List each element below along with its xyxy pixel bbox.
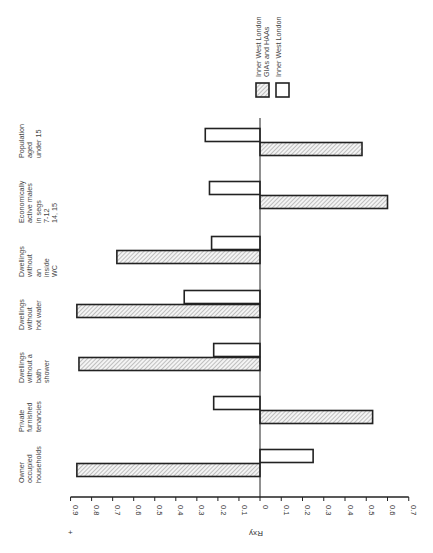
bar-inner-west-london bbox=[184, 291, 260, 304]
bar-inner-west-london bbox=[214, 344, 260, 357]
legend-label: Inner West LondonGIAs and HAAs bbox=[254, 16, 271, 77]
positive-sign-marker: + bbox=[68, 528, 73, 537]
tick-label: 0.1 bbox=[282, 505, 291, 515]
bar-inner-west-london bbox=[260, 450, 313, 463]
legend: Inner West LondonGIAs and HAAsInner West… bbox=[254, 16, 289, 97]
bar-gias-and-haas bbox=[260, 143, 362, 156]
category-label: Populationagedunder 15 bbox=[17, 124, 43, 158]
category-label-line: shower bbox=[42, 359, 51, 383]
bar-gias-and-haas bbox=[77, 305, 260, 318]
bar-gias-and-haas bbox=[117, 251, 260, 264]
tick-label-zero: 0 bbox=[261, 505, 270, 509]
category-label: DwellingswithoutaninsideWC bbox=[17, 246, 59, 278]
tick-label: 0.3 bbox=[197, 505, 206, 515]
legend-swatch-hatched bbox=[256, 83, 269, 97]
bar-gias-and-haas bbox=[79, 358, 260, 371]
category-label-line: tenancies bbox=[34, 401, 43, 432]
tick-label: 0.7 bbox=[113, 505, 122, 515]
category-labels: OwneroccupiedhouseholdsPrivatefurnishedt… bbox=[17, 124, 59, 483]
tick-label: 0.6 bbox=[134, 505, 143, 515]
bar-gias-and-haas bbox=[260, 411, 373, 424]
category-label-line: hot water bbox=[34, 300, 43, 330]
bar-inner-west-london bbox=[212, 237, 260, 250]
tick-label: 0.8 bbox=[92, 505, 101, 515]
tick-label: 0.4 bbox=[176, 505, 185, 515]
tick-label: 0.1 bbox=[240, 505, 249, 515]
bar-gias-and-haas bbox=[260, 196, 388, 209]
category-label: Owneroccupiedhouseholds bbox=[17, 446, 43, 483]
bars-layer bbox=[77, 129, 388, 477]
bar-inner-west-london bbox=[209, 182, 260, 195]
axis-title-rxy: Rxy bbox=[249, 529, 263, 538]
bar-inner-west-london bbox=[214, 397, 260, 410]
bar-gias-and-haas bbox=[77, 464, 260, 477]
tick-label: 0.7 bbox=[409, 505, 418, 515]
legend-label-line: GIAs and HAAs bbox=[262, 26, 271, 77]
category-label: Economicallyactive malesin segs7-1214, 1… bbox=[17, 180, 59, 223]
category-label: Privatefurnishedtenancies bbox=[17, 401, 43, 432]
tick-label: 0.2 bbox=[303, 505, 312, 515]
legend-label-line: Inner West London bbox=[274, 16, 283, 77]
legend-label: Inner West London bbox=[274, 16, 283, 77]
tick-label: 0.9 bbox=[71, 505, 80, 515]
category-label-line: under 15 bbox=[34, 130, 43, 158]
tick-label: 0.5 bbox=[155, 505, 164, 515]
category-label: Dwellingswithouthot water bbox=[17, 299, 43, 331]
tick-label: 0.5 bbox=[367, 505, 376, 515]
bar-inner-west-london bbox=[205, 129, 260, 142]
tick-label: 0.3 bbox=[324, 505, 333, 515]
category-label: Dwellingswithout abathshower bbox=[17, 352, 51, 384]
tick-label: 0.6 bbox=[388, 505, 397, 515]
category-label-line: households bbox=[34, 446, 43, 483]
category-label-line: WC bbox=[50, 265, 59, 277]
legend-swatch-open bbox=[276, 83, 289, 97]
tick-label: 0.2 bbox=[219, 505, 228, 515]
category-label-line: 14, 15 bbox=[50, 203, 59, 223]
rxy-bar-chart: 0.90.80.70.60.50.40.30.20.100.10.20.30.4… bbox=[0, 0, 433, 553]
value-axis: 0.90.80.70.60.50.40.30.20.100.10.20.30.4… bbox=[71, 497, 419, 515]
tick-label: 0.4 bbox=[346, 505, 355, 515]
